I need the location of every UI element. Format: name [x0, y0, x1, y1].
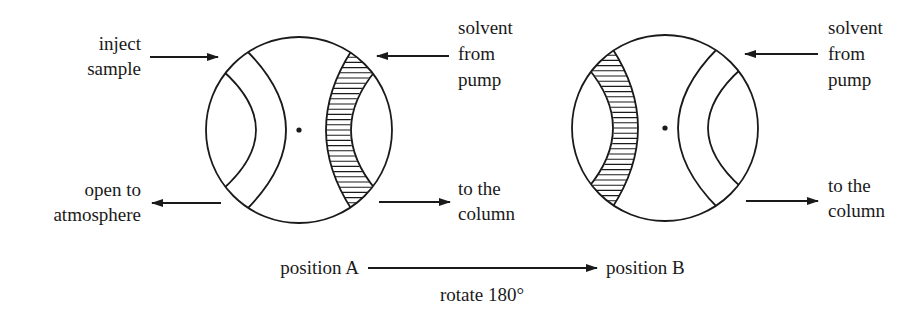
- pivot-dot-b: [662, 125, 667, 130]
- label-line: pump: [828, 69, 871, 90]
- channel-inner-arc-a: [222, 70, 256, 190]
- label-line: column: [828, 200, 885, 221]
- label-line: to the: [828, 175, 871, 196]
- channel-outer-arc-b: [678, 48, 718, 208]
- valve-diagram: inject sample open to atmosphere solvent…: [0, 0, 923, 312]
- label-line: to the: [458, 178, 501, 199]
- channel-inner-arc-b: [708, 68, 742, 188]
- rotate-caption: rotate 180°: [440, 284, 524, 305]
- label-open-to-atmosphere: open to atmosphere: [53, 179, 141, 225]
- label-solvent-from-pump-b: solvent from pump: [828, 17, 884, 90]
- label-line: from: [828, 43, 865, 64]
- label-line: column: [458, 203, 515, 224]
- label-solvent-from-pump-a: solvent from pump: [458, 17, 514, 90]
- channel-outer-arc-a: [246, 50, 286, 210]
- valve-position-b: [572, 35, 758, 221]
- label-inject-sample: inject sample: [87, 33, 142, 79]
- label-to-the-column-b: to the column: [828, 175, 885, 221]
- label-line: open to: [85, 179, 141, 200]
- label-line: atmosphere: [53, 204, 141, 225]
- label-line: from: [458, 43, 495, 64]
- label-line: sample: [87, 58, 141, 79]
- position-b-label: position B: [606, 257, 685, 278]
- pivot-dot-a: [296, 127, 301, 132]
- label-to-the-column-a: to the column: [458, 178, 515, 224]
- label-line: inject: [99, 33, 142, 54]
- label-line: pump: [458, 69, 501, 90]
- position-a-label: position A: [280, 257, 359, 278]
- label-line: solvent: [828, 17, 884, 38]
- valve-position-a: [206, 37, 392, 223]
- label-line: solvent: [458, 17, 514, 38]
